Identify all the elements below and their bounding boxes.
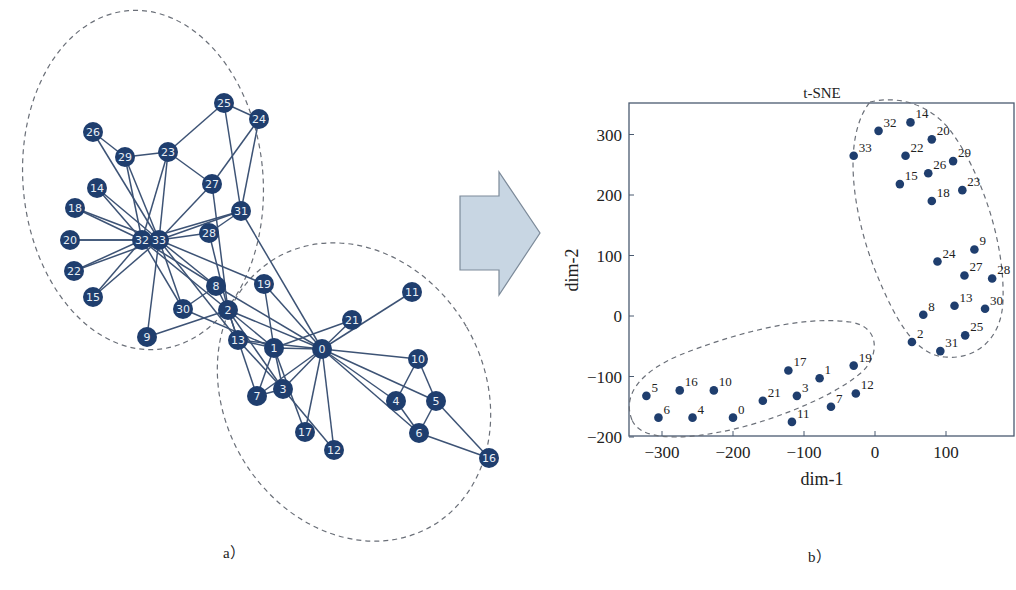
graph-edge: [322, 349, 334, 450]
scatter-point: 8: [919, 299, 935, 319]
point-marker: [981, 304, 990, 313]
graph-edge: [168, 103, 224, 152]
point-marker: [933, 257, 942, 266]
point-label: 15: [905, 168, 918, 183]
scatter-point: 0: [729, 402, 745, 422]
x-tick-label: −200: [715, 443, 750, 462]
y-tick-label: 0: [614, 307, 623, 326]
point-label: 10: [719, 374, 732, 389]
node-label: 1: [271, 342, 278, 355]
point-label: 20: [937, 123, 950, 138]
graph-edge: [322, 349, 396, 401]
graph-node: 3: [273, 379, 293, 399]
node-label: 22: [67, 265, 81, 278]
scatter-point: 20: [928, 123, 950, 143]
transform-arrow: [460, 172, 540, 295]
point-label: 5: [651, 380, 658, 395]
graph-node: 0: [312, 339, 332, 359]
node-label: 29: [118, 151, 132, 164]
point-marker: [949, 157, 958, 166]
node-label: 10: [411, 353, 425, 366]
node-label: 31: [234, 205, 248, 218]
graph-node: 10: [408, 349, 428, 369]
graph-edge: [97, 188, 142, 240]
scatter-point: 21: [759, 385, 781, 405]
point-label: 30: [990, 293, 1003, 308]
graph-node: 22: [64, 261, 84, 281]
point-label: 31: [945, 335, 958, 350]
point-label: 12: [861, 377, 874, 392]
scatter-point: 14: [906, 106, 929, 126]
scatter-point: 25: [961, 319, 983, 339]
point-marker: [675, 386, 684, 395]
node-label: 17: [298, 426, 312, 439]
x-tick-label: 100: [933, 443, 959, 462]
point-marker: [919, 310, 928, 319]
x-tick-label: −100: [786, 443, 821, 462]
graph-node: 16: [479, 448, 499, 468]
point-label: 27: [969, 259, 983, 274]
point-marker: [729, 413, 738, 422]
axis-ticks: −300−200−1000100−200−1000100200300: [587, 126, 959, 463]
graph-edge: [74, 240, 142, 271]
x-tick-label: −300: [644, 443, 679, 462]
graph-edge: [322, 349, 418, 359]
scatter-point: 11: [788, 406, 810, 426]
graph-node: 28: [199, 223, 219, 243]
point-marker: [950, 301, 959, 310]
graph-nodes: 0123456789101112131415161718192021222324…: [60, 93, 499, 468]
scatter-points: 3214203322292615231892427288133023125516…: [642, 106, 1010, 426]
graph-node: 2: [218, 300, 238, 320]
point-label: 29: [958, 145, 971, 160]
point-marker: [928, 197, 937, 206]
point-label: 6: [663, 402, 670, 417]
point-marker: [988, 274, 997, 283]
graph-node: 13: [228, 330, 248, 350]
point-marker: [928, 135, 937, 144]
graph-node: 31: [231, 201, 251, 221]
node-label: 19: [257, 278, 271, 291]
point-label: 18: [937, 185, 950, 200]
node-label: 32: [135, 234, 149, 247]
node-label: 26: [86, 126, 100, 139]
point-label: 0: [738, 402, 745, 417]
point-marker: [784, 366, 793, 375]
point-marker: [896, 180, 905, 189]
scatter-point: 31: [936, 335, 958, 355]
panel-b-label: b）: [808, 549, 831, 565]
scatter-point: 16: [675, 374, 698, 394]
graph-edge: [209, 233, 228, 310]
scatter-point: 26: [924, 157, 947, 177]
point-label: 8: [928, 299, 935, 314]
scatter-point: 2: [908, 326, 924, 346]
point-marker: [908, 338, 917, 347]
graph-node: 7: [247, 386, 267, 406]
node-label: 23: [161, 146, 175, 159]
graph-node: 26: [83, 122, 103, 142]
point-marker: [642, 392, 651, 401]
panel-a-label: a）: [223, 545, 245, 561]
node-label: 12: [327, 444, 341, 457]
node-label: 11: [405, 286, 419, 299]
chart-title: t-SNE: [803, 85, 841, 101]
figure: 0123456789101112131415161718192021222324…: [0, 0, 1016, 590]
graph-node: 27: [202, 174, 222, 194]
scatter-point: 27: [960, 259, 983, 279]
node-label: 18: [68, 202, 82, 215]
scatter-point: 6: [654, 402, 670, 422]
graph-edge: [419, 433, 489, 458]
node-label: 15: [86, 291, 100, 304]
x-axis-label: dim-1: [801, 469, 844, 489]
node-label: 5: [433, 395, 440, 408]
y-tick-label: 200: [597, 186, 623, 205]
scatter-point: 32: [874, 115, 896, 135]
point-marker: [654, 413, 663, 422]
node-label: 9: [144, 331, 151, 344]
graph-node: 24: [249, 109, 269, 129]
node-label: 21: [345, 314, 359, 327]
graph-edge: [322, 292, 412, 349]
scatter-point: 9: [970, 233, 986, 253]
point-marker: [906, 118, 915, 127]
scatter-point: 18: [928, 185, 950, 205]
node-label: 8: [213, 280, 220, 293]
